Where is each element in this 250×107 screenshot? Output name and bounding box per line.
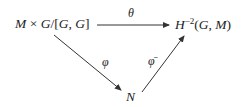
label-phi-bar: φ̄	[148, 55, 155, 67]
target-arg-g: G	[199, 17, 209, 32]
node-target: H−2(G, M)	[175, 17, 231, 32]
source-part-g1: G	[41, 16, 51, 31]
source-part-times: ×	[26, 16, 40, 31]
label-theta: θ	[128, 7, 134, 19]
node-bottom: N	[126, 90, 135, 104]
commutative-diagram: M × G/[G, G] H−2(G, M) N θ φ φ̄	[0, 0, 250, 107]
source-part-g2: G	[59, 16, 69, 31]
arrow-phi	[54, 35, 121, 90]
source-part-m: M	[15, 16, 26, 31]
source-part-slash: /[	[50, 16, 58, 31]
source-part-close: ]	[85, 16, 90, 31]
target-base: H	[175, 17, 185, 32]
target-arg-m: M	[215, 17, 226, 32]
label-phi: φ	[102, 56, 109, 68]
node-source: M × G/[G, G]	[15, 17, 89, 31]
source-part-g3: G	[75, 16, 85, 31]
target-close: )	[227, 17, 232, 32]
target-superscript: −2	[185, 16, 195, 26]
